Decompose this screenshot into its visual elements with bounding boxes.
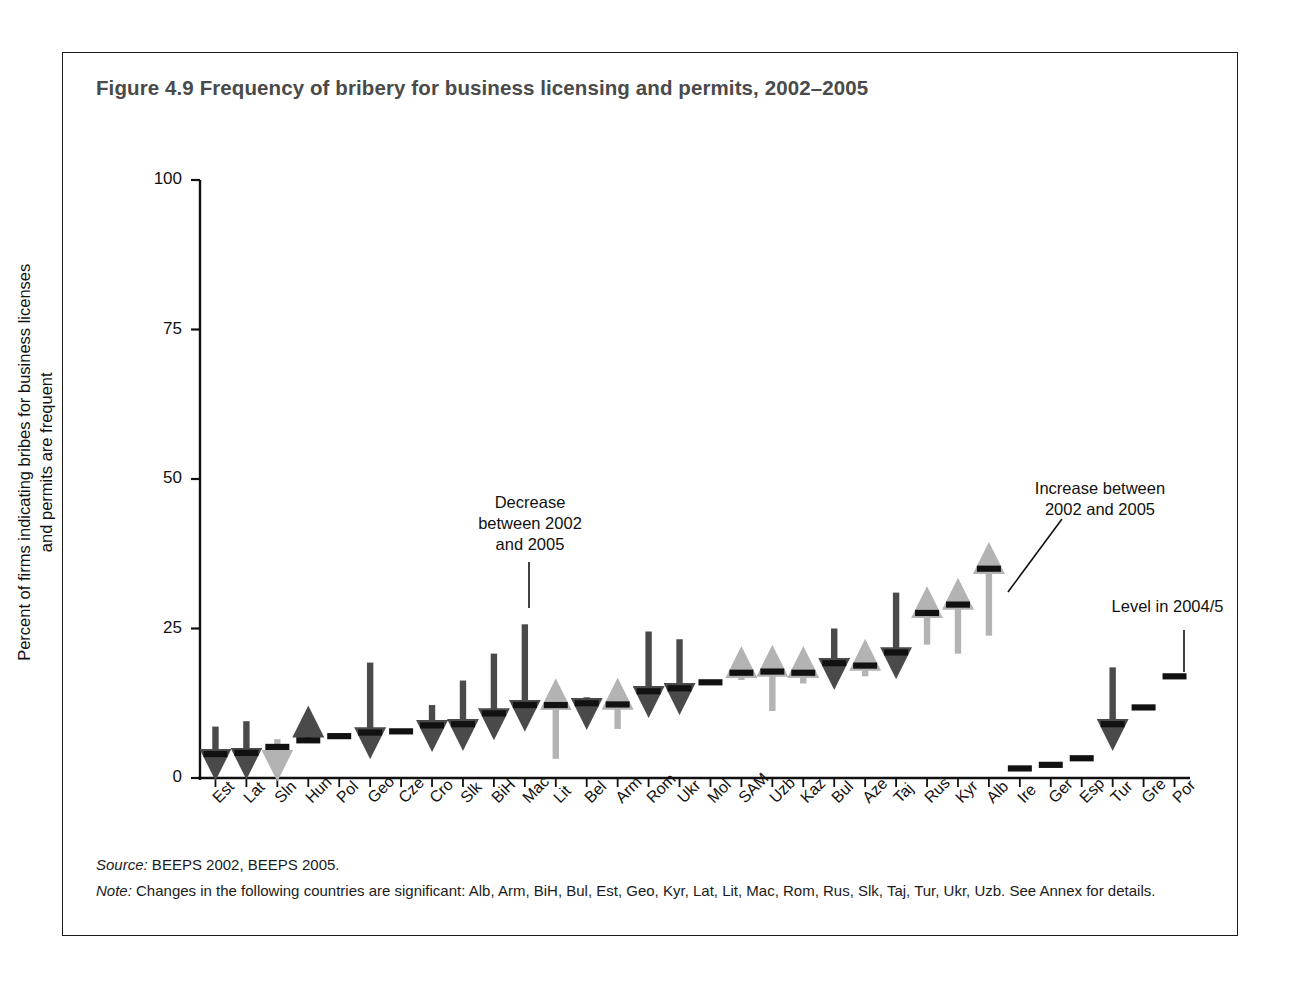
note-text: Changes in the following countries are s… (132, 882, 1156, 899)
y-tick-label: 50 (136, 468, 182, 488)
y-tick-label: 100 (136, 169, 182, 189)
chart-area: Percent of firms indicating bribes for b… (0, 0, 1300, 987)
footnotes: Source: BEEPS 2002, BEEPS 2005. Note: Ch… (96, 852, 1226, 905)
leader-line-increase (1008, 519, 1062, 592)
note-label: Note: (96, 882, 132, 899)
source-line: Source: BEEPS 2002, BEEPS 2005. (96, 852, 1226, 878)
source-text: BEEPS 2002, BEEPS 2005. (148, 856, 340, 873)
note-line: Note: Changes in the following countries… (96, 878, 1226, 904)
y-axis-title: Percent of firms indicating bribes for b… (13, 252, 58, 672)
y-tick-label: 0 (136, 767, 182, 787)
annotation-level: Level in 2004/5 (1080, 596, 1255, 617)
y-tick-label: 25 (136, 618, 182, 638)
figure-page: Figure 4.9 Frequency of bribery for busi… (0, 0, 1300, 987)
source-label: Source: (96, 856, 148, 873)
y-tick-label: 75 (136, 319, 182, 339)
annotation-increase: Increase between 2002 and 2005 (995, 478, 1205, 520)
annotation-decrease: Decrease between 2002 and 2005 (450, 492, 610, 555)
